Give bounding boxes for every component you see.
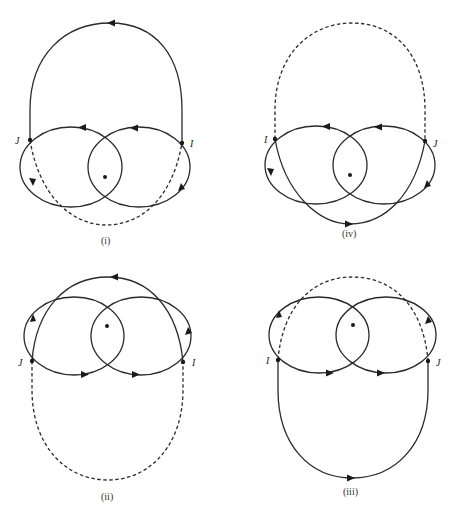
point-i xyxy=(181,360,185,364)
left-loop xyxy=(20,127,122,207)
left-loop xyxy=(24,297,124,375)
label-right-point: I xyxy=(191,357,196,368)
right-loop xyxy=(336,297,436,373)
center-point xyxy=(105,324,109,328)
label-right-point: J xyxy=(433,138,438,149)
point-j xyxy=(28,138,32,142)
arrow-icon xyxy=(81,371,89,378)
inner-arc-dashed xyxy=(278,277,428,361)
arrow-icon xyxy=(78,124,86,131)
label-left-point: J xyxy=(15,135,20,146)
center-point xyxy=(351,323,355,327)
panel-i: J I (i) xyxy=(15,20,194,248)
point-i xyxy=(273,137,277,141)
label-right-point: I xyxy=(189,138,194,149)
point-j xyxy=(30,359,34,363)
panel-caption: (i) xyxy=(101,235,110,247)
arrow-icon xyxy=(130,125,138,132)
panel-ii: J I (ii) xyxy=(18,274,196,504)
point-j xyxy=(423,139,427,143)
arrow-icon xyxy=(107,20,115,27)
label-left-point: J xyxy=(18,357,23,368)
arrow-icon xyxy=(374,124,382,131)
arrow-icon xyxy=(347,475,355,482)
center-point xyxy=(103,175,107,179)
outer-arc-solid xyxy=(30,23,182,143)
center-point xyxy=(348,173,352,177)
point-i xyxy=(276,358,280,362)
arrow-icon xyxy=(132,371,140,378)
panel-caption: (iii) xyxy=(343,486,358,498)
inner-arc-solid xyxy=(275,139,425,224)
right-loop xyxy=(91,297,191,375)
right-loop xyxy=(333,126,435,204)
panel-caption: (ii) xyxy=(101,491,113,503)
inner-arc-solid xyxy=(32,277,183,362)
panel-caption: (iv) xyxy=(342,228,356,240)
arrow-icon xyxy=(110,274,118,281)
outer-arc-solid xyxy=(278,360,428,478)
arrow-icon xyxy=(326,370,334,377)
point-i xyxy=(180,141,184,145)
outer-arc-dashed xyxy=(275,23,425,141)
figure-canvas: J I (i) I J (iv) xyxy=(0,0,454,511)
panel-iv: I J (iv) xyxy=(263,23,438,240)
inner-arc-dashed xyxy=(30,140,182,225)
arrow-icon xyxy=(267,168,274,176)
panel-iii: I J (iii) xyxy=(265,277,441,498)
right-loop xyxy=(88,127,190,207)
label-right-point: J xyxy=(436,357,441,368)
arrow-icon xyxy=(345,221,353,228)
arrow-icon xyxy=(29,178,36,186)
left-loop xyxy=(269,297,369,373)
label-left-point: I xyxy=(263,134,268,145)
left-loop xyxy=(265,126,367,204)
outer-arc-dashed xyxy=(32,361,183,480)
arrow-icon xyxy=(377,370,385,377)
arrow-icon xyxy=(322,123,330,130)
point-j xyxy=(426,359,430,363)
label-left-point: I xyxy=(265,355,270,366)
